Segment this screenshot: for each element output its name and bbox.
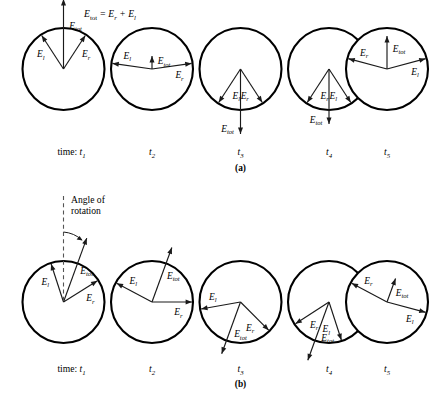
time-label-b-t2: t2 [149, 363, 156, 376]
vector-e-tot-head [167, 247, 172, 254]
time-label-a-t4: t4 [326, 146, 333, 159]
time-label-a-t3: t3 [237, 146, 244, 159]
polarization-figure: ElErEtotElErEtotElErEtotErElEtotErElEtot… [0, 0, 443, 398]
time-label-a-t1: time: t1 [57, 146, 85, 159]
label-e-tot: Etot [68, 21, 82, 32]
label-e-tot: Etot [220, 124, 234, 135]
vector-e-tot-head [327, 118, 332, 124]
time-label-a-t5: t5 [384, 146, 391, 159]
frame-b-t2: ElErEtot [111, 247, 193, 343]
time-label-b-t4: t4 [326, 363, 333, 376]
vector-e-tot-head [61, 0, 66, 5]
frame-b-t3: ElErEtot [200, 261, 282, 354]
vector-e-tot-head [82, 238, 87, 245]
figure-canvas: ElErEtotElErEtotElErEtotErElEtotErElEtot… [0, 0, 443, 398]
frame-a-t3: ElErEtot [200, 28, 282, 135]
frame-a-t2: ElErEtot [111, 28, 193, 110]
frame-a-t5: ErElEtot [346, 28, 428, 110]
time-label-a-t2: t2 [149, 146, 156, 159]
frame-b-t5: ErElEtot [346, 261, 428, 343]
vector-e-tot-head [308, 353, 313, 360]
vector-e-tot-head [238, 128, 243, 134]
annotation-angle-of-rotation-line2: rotation [71, 205, 101, 216]
label-e-tot: Etot [309, 115, 323, 126]
vector-e-tot-head [222, 347, 227, 354]
time-label-b-t3: t3 [237, 363, 244, 376]
annotation-angle-of-rotation-line1: Angle of [71, 194, 106, 205]
panel-b: ElErEtotElErEtotElErEtotErElEtotErElEtot… [23, 194, 429, 390]
time-label-b-t1: time: t1 [57, 363, 85, 376]
equation-e-tot: Etot = Er + El [83, 8, 136, 21]
panel-label-b: (b) [235, 379, 246, 390]
panel-label-a: (a) [235, 163, 246, 174]
time-label-b-t5: t5 [384, 363, 391, 376]
panel-a: ElErEtotElErEtotElErEtotErElEtotErElEtot… [23, 0, 429, 174]
